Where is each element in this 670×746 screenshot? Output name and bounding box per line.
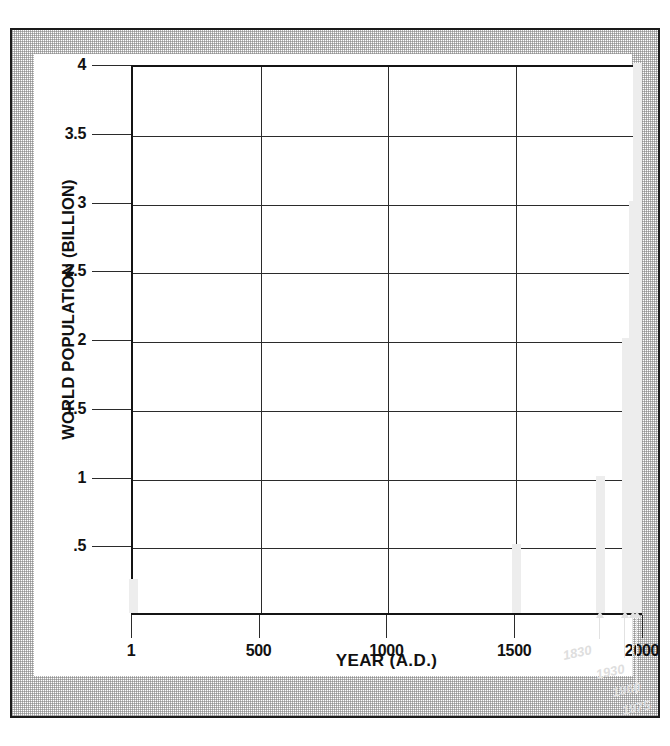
gridline-horizontal <box>133 548 640 549</box>
gridline-vertical <box>261 67 262 613</box>
y-tick-mark <box>92 340 131 341</box>
x-tick-mark <box>386 615 387 638</box>
chart-canvas: WORLD POPULATION (BILLION) .511.522.533.… <box>34 54 632 676</box>
y-tick-mark <box>92 546 131 547</box>
y-tick-mark <box>92 203 131 204</box>
gridline-vertical <box>516 67 517 613</box>
x-axis-title: YEAR (A.D.) <box>131 651 642 671</box>
y-tick-label: 3 <box>34 194 86 212</box>
y-tick-mark <box>92 409 131 410</box>
y-tick-mark <box>92 134 131 135</box>
gridline-horizontal <box>133 273 640 274</box>
y-tick-mark <box>92 271 131 272</box>
x-tick-mark <box>259 615 260 638</box>
x-tick-mark <box>642 615 643 638</box>
gridline-horizontal <box>133 136 640 137</box>
figure-frame: WORLD POPULATION (BILLION) .511.522.533.… <box>10 28 660 718</box>
y-tick-mark <box>92 478 131 479</box>
gridline-vertical <box>388 67 389 613</box>
bar <box>596 476 605 614</box>
y-tick-label: 1 <box>34 469 86 487</box>
gridline-horizontal <box>133 205 640 206</box>
bar <box>129 579 138 613</box>
y-tick-mark <box>92 65 131 66</box>
x-tick-mark <box>514 615 515 638</box>
gridline-horizontal <box>133 480 640 481</box>
y-tick-label: 2.5 <box>34 262 86 280</box>
y-tick-label: .5 <box>34 537 86 555</box>
y-tick-label: 3.5 <box>34 125 86 143</box>
bar <box>512 544 521 613</box>
plot-area <box>131 65 642 615</box>
bar <box>633 63 642 613</box>
annotation-arrow-icon <box>599 617 600 639</box>
gridline-horizontal <box>133 411 640 412</box>
gridline-horizontal <box>133 342 640 343</box>
y-tick-label: 4 <box>34 56 86 74</box>
y-axis-title: WORLD POPULATION (BILLION) <box>59 110 78 510</box>
x-tick-mark <box>131 615 132 638</box>
y-tick-label: 1.5 <box>34 400 86 418</box>
y-tick-label: 2 <box>34 331 86 349</box>
